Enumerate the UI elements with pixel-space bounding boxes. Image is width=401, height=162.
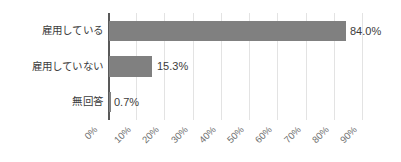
xtick-label-0: 0% <box>82 124 99 141</box>
bar-chart: 雇用している 84.0% 雇用していない 15.3% 無回答 0.7% 0% 1… <box>0 0 401 162</box>
bar-value-label-2: 0.7% <box>114 92 139 113</box>
xtick-label-10: 10% <box>112 124 133 145</box>
bar-row: 無回答 0.7% <box>0 84 401 120</box>
xtick-label-20: 20% <box>140 124 161 145</box>
category-label-1: 雇用していない <box>0 49 103 85</box>
bar-value-label-1: 15.3% <box>157 56 188 77</box>
xtick-label-60: 60% <box>253 124 274 145</box>
xtick-label-70: 70% <box>281 124 302 145</box>
bar-row: 雇用している 84.0% <box>0 13 401 49</box>
bar-row: 雇用していない 15.3% <box>0 49 401 85</box>
xtick-label-80: 80% <box>309 124 330 145</box>
xtick-label-90: 90% <box>338 124 359 145</box>
category-label-2: 無回答 <box>0 84 103 120</box>
bar-0 <box>109 21 346 42</box>
xtick-label-30: 30% <box>168 124 189 145</box>
xtick-label-50: 50% <box>225 124 246 145</box>
xtick-label-40: 40% <box>196 124 217 145</box>
bar-1 <box>109 56 152 77</box>
category-label-0: 雇用している <box>0 13 103 49</box>
bar-value-label-0: 84.0% <box>350 21 381 42</box>
bar-2 <box>109 92 111 113</box>
